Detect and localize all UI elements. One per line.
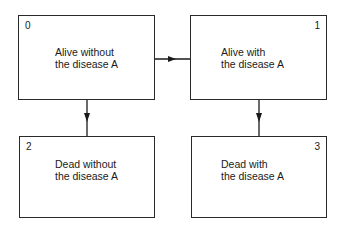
transition-arrows (0, 0, 345, 229)
arrow-0-to-1 (155, 56, 190, 62)
arrow-0-to-2 (84, 100, 90, 136)
arrowhead-icon (84, 113, 90, 122)
arrow-1-to-3 (256, 100, 262, 136)
arrowhead-icon (256, 113, 262, 122)
arrowhead-icon (168, 56, 176, 62)
